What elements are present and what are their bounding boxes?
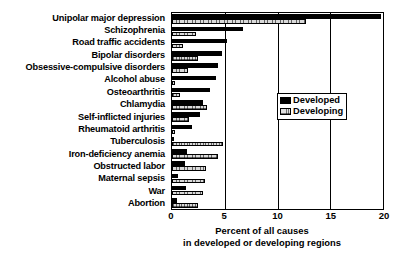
bar-developing [172, 117, 189, 121]
bar-developed [172, 39, 227, 43]
bar-row [172, 62, 383, 74]
bar-developed [172, 100, 203, 104]
bar-developing [172, 68, 188, 72]
bar-developed [172, 149, 187, 153]
bar-developing [172, 154, 218, 158]
category-label: Alcohol abuse [0, 74, 168, 86]
bar-row [172, 38, 383, 50]
bar-developed [172, 14, 381, 18]
bar-developing [172, 81, 175, 85]
bar-row [172, 185, 383, 197]
bar-developing [172, 44, 183, 48]
category-label: Obsessive-compulsive disorders [0, 62, 168, 74]
category-label: Maternal sepsis [0, 173, 168, 185]
bar-row [172, 13, 383, 25]
gridline [383, 13, 384, 209]
bar-developed [172, 112, 200, 116]
bar-developing [172, 142, 223, 146]
category-label: Rheumatoid arthritis [0, 123, 168, 135]
bar-developing [172, 105, 207, 109]
legend-item-developed: Developed [280, 96, 343, 105]
bar-developing [172, 32, 196, 36]
bar-row [172, 50, 383, 62]
x-axis-tick-label: 0 [168, 211, 173, 221]
category-label: Bipolar disorders [0, 49, 168, 61]
solid-black-swatch-icon [280, 97, 291, 104]
x-axis-tick-label: 10 [272, 211, 283, 221]
bar-developed [172, 174, 178, 178]
bar-developing [172, 130, 175, 134]
x-axis-title: Percent of all causes in developed or de… [132, 225, 392, 248]
bar-developed [172, 125, 192, 129]
category-label: Chlamydia [0, 99, 168, 111]
x-axis-ticks: 05101520 [171, 211, 384, 224]
category-label: Iron-deficiency anemia [0, 148, 168, 160]
bar-developing [172, 191, 203, 195]
bar-developing [172, 56, 198, 60]
hatched-gray-swatch-icon [280, 108, 291, 115]
x-axis-tick-label: 20 [379, 211, 390, 221]
bar-developed [172, 198, 177, 202]
bar-row [172, 172, 383, 184]
bar-developed [172, 88, 210, 92]
bar-developing [172, 166, 206, 170]
bar-developed [172, 63, 218, 67]
category-label: Abortion [0, 198, 168, 210]
x-axis-title-line1: Percent of all causes [132, 225, 392, 237]
bar-developing [172, 93, 180, 97]
bar-developed [172, 51, 222, 55]
bar-chart: Unipolar major depressionSchizophreniaRo… [0, 0, 407, 266]
x-axis-tick-label: 5 [222, 211, 227, 221]
category-label: Road traffic accidents [0, 37, 168, 49]
category-label: Osteoarthritis [0, 86, 168, 98]
bar-developing [172, 203, 198, 207]
category-label: Schizophrenia [0, 24, 168, 36]
legend: Developed Developing [277, 93, 347, 120]
bar-row [172, 197, 383, 209]
bar-row [172, 136, 383, 148]
category-label: Obstructed labor [0, 161, 168, 173]
category-label: Unipolar major depression [0, 12, 168, 24]
bar-developed [172, 76, 216, 80]
bar-row [172, 123, 383, 135]
legend-label-developed: Developed [293, 96, 340, 105]
category-label-column: Unipolar major depressionSchizophreniaRo… [0, 12, 168, 210]
bar-developed [172, 161, 185, 165]
bar-developed [172, 27, 243, 31]
bar-row [172, 148, 383, 160]
bar-row [172, 160, 383, 172]
category-label: Self-inflicted injuries [0, 111, 168, 123]
bar-developed [172, 137, 174, 141]
bar-developing [172, 19, 306, 23]
category-label: War [0, 185, 168, 197]
legend-item-developing: Developing [280, 107, 343, 116]
x-axis-tick-label: 15 [325, 211, 336, 221]
legend-label-developing: Developing [293, 107, 343, 116]
bar-row [172, 25, 383, 37]
bar-row [172, 74, 383, 86]
bar-developed [172, 186, 186, 190]
bar-developing [172, 179, 205, 183]
category-label: Tuberculosis [0, 136, 168, 148]
x-axis-title-line2: in developed or developing regions [132, 237, 392, 249]
